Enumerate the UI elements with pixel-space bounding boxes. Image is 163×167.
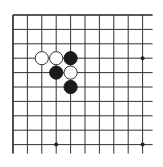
star-point-icon (54, 143, 58, 147)
black-stone-icon (64, 52, 77, 65)
white-stone-icon (50, 52, 63, 65)
go-board[interactable] (0, 0, 163, 167)
board-canvas[interactable] (0, 0, 163, 167)
grid-lines (13, 15, 153, 154)
white-stone-icon (35, 52, 48, 65)
star-point-icon (141, 143, 145, 147)
black-stone-icon (64, 80, 77, 93)
black-stone-icon (50, 66, 63, 79)
star-point-icon (141, 56, 145, 60)
white-stone-icon (64, 66, 77, 79)
